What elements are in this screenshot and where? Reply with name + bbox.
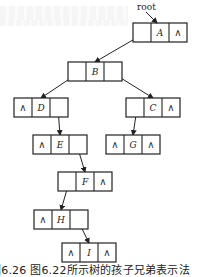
- tree-node-b: B: [68, 62, 122, 81]
- left-pointer-cell: ∧: [19, 102, 26, 113]
- data-cell: B: [91, 67, 99, 77]
- right-pointer-cell: ∧: [103, 247, 110, 258]
- data-cell: E: [56, 140, 64, 150]
- right-pointer-cell: ∧: [147, 139, 154, 150]
- left-pointer-cell: ∧: [38, 139, 45, 150]
- tree-node-h: ∧H: [34, 210, 88, 229]
- data-cell: F: [81, 177, 89, 187]
- data-cell: A: [156, 28, 164, 38]
- data-cell: G: [129, 140, 136, 150]
- left-pointer-cell: ∧: [67, 247, 74, 258]
- right-pointer-cell: ∧: [174, 27, 181, 38]
- left-pointer-cell: ∧: [39, 214, 46, 225]
- tree-node-a: A∧: [133, 23, 187, 42]
- right-pointer-cell: ∧: [167, 102, 174, 113]
- data-cell: H: [56, 215, 65, 225]
- tree-node-c: C∧: [126, 98, 180, 117]
- right-pointer-cell: ∧: [99, 176, 106, 187]
- figure-caption: 图6.26 图6.22所示树的孩子兄弟表示法: [0, 261, 220, 277]
- data-cell: I: [86, 248, 91, 258]
- tree-node-i: ∧I∧: [62, 243, 116, 262]
- data-cell: C: [150, 103, 157, 113]
- tree-node-e: ∧E: [33, 135, 87, 154]
- data-cell: D: [36, 103, 44, 113]
- tree-node-g: ∧G∧: [106, 135, 160, 154]
- tree-node-d: ∧D: [14, 98, 68, 117]
- tree-node-f: F∧: [58, 172, 112, 191]
- left-pointer-cell: ∧: [111, 139, 118, 150]
- root-pointer-label: root: [137, 2, 156, 12]
- root-arrow: [146, 12, 157, 23]
